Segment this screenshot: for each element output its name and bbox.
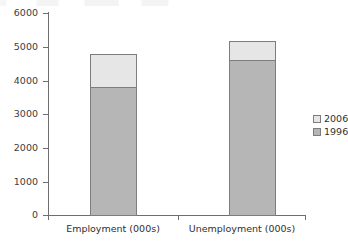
y-axis-line	[48, 12, 49, 216]
y-axis-label-0: 0	[32, 210, 38, 220]
x-axis-category-employment: Employment (000s)	[48, 223, 178, 234]
scan-artifact	[0, 0, 346, 6]
legend-swatch-icon-1996	[313, 128, 321, 136]
legend-label-2006: 2006	[324, 114, 348, 124]
x-axis-category-unemployment: Unemployment (000s)	[178, 223, 306, 234]
legend-item-1996: 1996	[313, 125, 346, 138]
x-axis-tick	[48, 216, 49, 220]
y-axis-label-2000: 2000	[14, 143, 38, 153]
bar-segment-1996-unemployment	[229, 60, 276, 216]
y-axis-label-5000: 5000	[14, 42, 38, 52]
y-axis-label-1000: 1000	[14, 177, 38, 187]
y-axis-label-6000: 6000	[14, 8, 38, 18]
x-axis-tick	[178, 216, 179, 220]
chart-legend: 2006 1996	[313, 112, 346, 138]
y-axis-tick	[43, 81, 48, 82]
bar-unemployment	[229, 41, 276, 216]
y-axis-label-4000: 4000	[14, 76, 38, 86]
bar-segment-1996-employment	[90, 87, 137, 216]
y-axis-tick	[43, 182, 48, 183]
bar-segment-2006-employment	[90, 54, 137, 88]
legend-item-2006: 2006	[313, 112, 346, 125]
x-axis-tick	[305, 216, 306, 220]
y-axis-tick	[43, 114, 48, 115]
bar-segment-2006-unemployment	[229, 41, 276, 61]
y-axis-tick	[43, 148, 48, 149]
y-axis-label-3000: 3000	[14, 109, 38, 119]
legend-label-1996: 1996	[324, 127, 348, 137]
bar-employment	[90, 54, 137, 216]
legend-swatch-icon-2006	[313, 115, 321, 123]
y-axis-tick	[43, 13, 48, 14]
y-axis-tick	[43, 47, 48, 48]
